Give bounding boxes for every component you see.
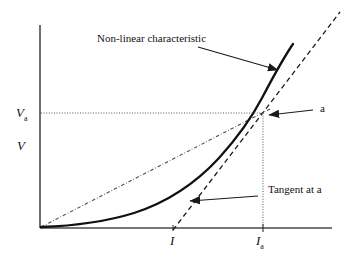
point-label-arrow	[269, 110, 313, 115]
tangent-line	[173, 12, 340, 230]
va-value-label: Va	[16, 106, 28, 123]
va-subscript: a	[24, 114, 28, 123]
chord-line	[41, 109, 270, 227]
x-axis-label: I	[170, 234, 174, 247]
curve-annotation-label: Non-linear characteristic	[97, 33, 206, 44]
operating-point-label: a	[320, 103, 325, 114]
y-axis-label: V	[17, 139, 25, 152]
nonlinear-characteristic-curve	[41, 44, 293, 227]
tangent-label-arrow	[190, 196, 258, 201]
tangent-annotation-label: Tangent at a	[268, 184, 322, 195]
va-base: V	[16, 105, 24, 120]
ia-value-label: Ia	[256, 234, 264, 251]
curve-label-arrow	[198, 47, 278, 70]
ia-subscript: a	[260, 242, 264, 251]
figure-container: Non-linear characteristic Tangent at a a…	[0, 0, 358, 257]
